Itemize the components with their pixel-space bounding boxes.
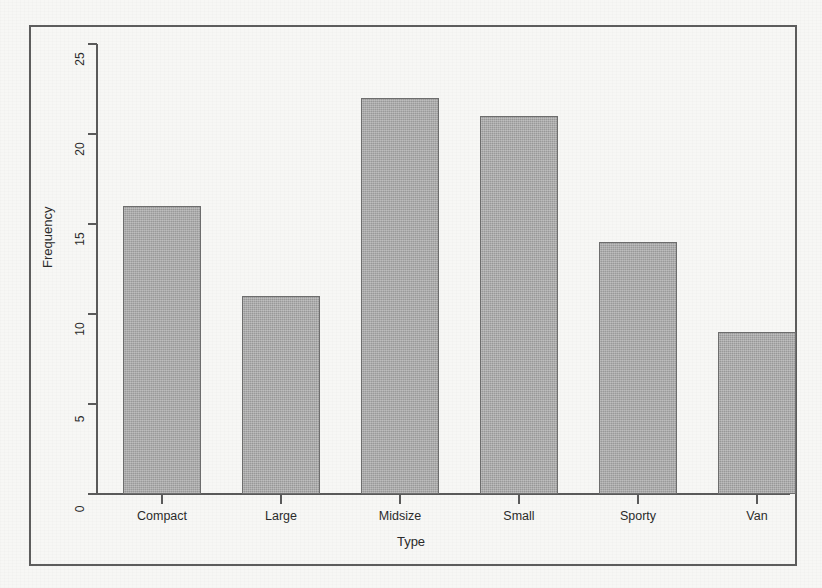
y-axis-tick bbox=[88, 133, 97, 135]
y-axis-line bbox=[96, 44, 98, 495]
y-axis-tick-label: 10 bbox=[73, 314, 87, 344]
x-axis-tick-label: Compact bbox=[102, 508, 222, 524]
y-axis-tick-label: 5 bbox=[73, 404, 87, 434]
y-axis-tick bbox=[88, 313, 97, 315]
y-axis-tick-label: 0 bbox=[73, 494, 87, 524]
y-axis-tick-label: 25 bbox=[73, 44, 87, 74]
x-axis-tick bbox=[161, 495, 163, 504]
x-axis-title: Type bbox=[0, 534, 822, 549]
y-axis-title: Frequency bbox=[40, 148, 55, 268]
x-axis-tick bbox=[756, 495, 758, 504]
x-axis-tick bbox=[518, 495, 520, 504]
x-axis-tick bbox=[399, 495, 401, 504]
x-axis-tick-label: Midsize bbox=[340, 508, 460, 524]
x-axis-tick-label: Large bbox=[221, 508, 341, 524]
bar-small bbox=[480, 116, 558, 494]
y-axis-tick bbox=[88, 403, 97, 405]
bar-compact bbox=[123, 206, 201, 494]
bar-sporty bbox=[599, 242, 677, 494]
x-axis-tick-label: Small bbox=[459, 508, 579, 524]
y-axis-tick-label: 20 bbox=[73, 134, 87, 164]
y-axis-tick bbox=[88, 493, 97, 495]
x-axis-tick-label: Sporty bbox=[578, 508, 698, 524]
y-axis-tick-label: 15 bbox=[73, 224, 87, 254]
plot-screenshot: 0510152025 CompactLargeMidsizeSmallSport… bbox=[0, 0, 822, 588]
y-axis-tick bbox=[88, 223, 97, 225]
x-axis-tick-label: Van bbox=[697, 508, 817, 524]
y-axis-tick bbox=[88, 43, 97, 45]
x-axis-tick bbox=[637, 495, 639, 504]
x-axis-tick bbox=[280, 495, 282, 504]
bar-midsize bbox=[361, 98, 439, 494]
bar-large bbox=[242, 296, 320, 494]
bar-van bbox=[718, 332, 796, 494]
